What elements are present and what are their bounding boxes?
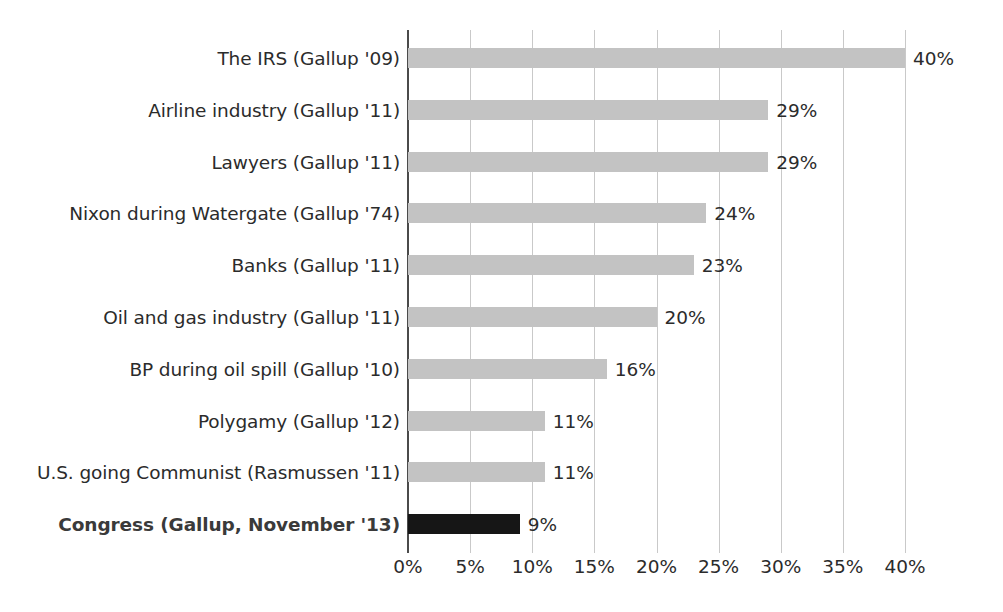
bar[interactable] xyxy=(408,100,768,120)
bar-row[interactable]: The IRS (Gallup '09)40% xyxy=(0,32,1003,84)
bar[interactable] xyxy=(408,152,768,172)
bar-value-label: 11% xyxy=(553,410,594,431)
bar-row[interactable]: U.S. going Communist (Rasmussen '11)11% xyxy=(0,446,1003,498)
category-label: The IRS (Gallup '09) xyxy=(217,48,400,69)
bar[interactable] xyxy=(408,255,694,275)
category-label: Banks (Gallup '11) xyxy=(231,255,400,276)
bar-row[interactable]: Congress (Gallup, November '13)9% xyxy=(0,498,1003,550)
bar-value-label: 29% xyxy=(776,151,817,172)
bar-value-label: 20% xyxy=(665,307,706,328)
category-label: BP during oil spill (Gallup '10) xyxy=(129,358,400,379)
x-tick-label: 35% xyxy=(822,556,863,577)
bar-row[interactable]: Lawyers (Gallup '11)29% xyxy=(0,136,1003,188)
bar-row[interactable]: BP during oil spill (Gallup '10)16% xyxy=(0,343,1003,395)
bar[interactable] xyxy=(408,48,905,68)
bar-row[interactable]: Oil and gas industry (Gallup '11)20% xyxy=(0,291,1003,343)
category-label: Congress (Gallup, November '13) xyxy=(58,514,400,535)
x-tick-label: 0% xyxy=(393,556,422,577)
bar-row[interactable]: Airline industry (Gallup '11)29% xyxy=(0,84,1003,136)
category-label: Polygamy (Gallup '12) xyxy=(198,410,400,431)
bar-row[interactable]: Nixon during Watergate (Gallup '74)24% xyxy=(0,187,1003,239)
category-label: Oil and gas industry (Gallup '11) xyxy=(103,307,400,328)
bar-value-label: 9% xyxy=(528,514,557,535)
bar-row[interactable]: Banks (Gallup '11)23% xyxy=(0,239,1003,291)
x-tick-label: 30% xyxy=(760,556,801,577)
category-label: Lawyers (Gallup '11) xyxy=(211,151,400,172)
bar-chart: The IRS (Gallup '09)40%Airline industry … xyxy=(0,0,1003,612)
category-label: Nixon during Watergate (Gallup '74) xyxy=(69,203,400,224)
x-tick-label: 15% xyxy=(574,556,615,577)
bar[interactable] xyxy=(408,462,545,482)
x-tick-label: 40% xyxy=(884,556,925,577)
bar[interactable] xyxy=(408,203,706,223)
bar-value-label: 16% xyxy=(615,358,656,379)
bar[interactable] xyxy=(408,514,520,534)
bar-value-label: 40% xyxy=(913,48,954,69)
bar[interactable] xyxy=(408,411,545,431)
bar-row[interactable]: Polygamy (Gallup '12)11% xyxy=(0,395,1003,447)
x-tick-label: 20% xyxy=(636,556,677,577)
plot-area: The IRS (Gallup '09)40%Airline industry … xyxy=(0,0,1003,612)
bar-value-label: 11% xyxy=(553,462,594,483)
bar-value-label: 23% xyxy=(702,255,743,276)
category-label: Airline industry (Gallup '11) xyxy=(148,99,400,120)
category-label: U.S. going Communist (Rasmussen '11) xyxy=(37,462,400,483)
bar-value-label: 24% xyxy=(714,203,755,224)
x-tick-label: 10% xyxy=(512,556,553,577)
bar-value-label: 29% xyxy=(776,99,817,120)
bar[interactable] xyxy=(408,359,607,379)
x-tick-label: 25% xyxy=(698,556,739,577)
x-axis-tick-labels: 0%5%10%15%20%25%30%35%40% xyxy=(0,556,1003,590)
bar[interactable] xyxy=(408,307,657,327)
x-tick-label: 5% xyxy=(455,556,484,577)
